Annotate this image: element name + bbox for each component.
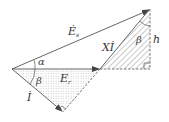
label-beta-left: β xyxy=(35,75,42,86)
alpha-arc xyxy=(34,60,35,69)
label-xi: Xİ xyxy=(101,40,115,54)
label-h: h xyxy=(153,33,160,46)
label-beta-right: β xyxy=(135,34,142,45)
label-i: İ xyxy=(26,90,32,104)
label-alpha: α xyxy=(38,56,45,67)
label-es: Ės xyxy=(67,24,79,38)
phasor-diagram: Ės Er İ Xİ α β β h xyxy=(0,0,169,122)
